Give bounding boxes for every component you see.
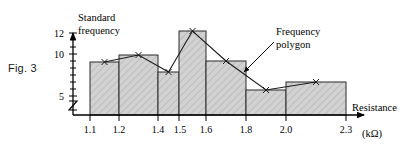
y-tick-label-5: 5 xyxy=(59,91,64,102)
bar-2.0-2.3 xyxy=(286,82,346,115)
annotation-frequency-polygon: Frequency polygon xyxy=(244,26,321,72)
histogram-chart: 12 10 5 Standard frequency 1.1 1.2 1.4 1… xyxy=(0,0,406,149)
y-axis-title-line2: frequency xyxy=(78,25,121,36)
y-axis-title-line1: Standard xyxy=(78,12,116,23)
annotation-leader-line xyxy=(244,42,274,72)
y-tick-label-10: 10 xyxy=(54,49,64,60)
x-tick-label-5: 1.6 xyxy=(200,124,213,135)
x-axis-unit: (kΩ) xyxy=(362,128,383,140)
bar-1.5-1.6 xyxy=(179,31,206,115)
x-tick-label-3: 1.4 xyxy=(152,124,165,135)
x-tick-label-4: 1.5 xyxy=(174,124,187,135)
annotation-text-line1: Frequency xyxy=(276,26,321,37)
x-tick-label-6: 1.8 xyxy=(240,124,253,135)
bar-1.8-2.0 xyxy=(246,90,286,115)
annotation-text-line2: polygon xyxy=(276,39,311,50)
x-tick-label-8: 2.3 xyxy=(340,124,353,135)
x-tick-label-2: 1.2 xyxy=(113,124,126,135)
bar-1.6-1.8 xyxy=(206,61,246,115)
figure-container: Fig. 3 xyxy=(0,0,406,149)
x-tick-label-1: 1.1 xyxy=(84,124,97,135)
x-tick-label-7: 2.0 xyxy=(280,124,293,135)
bar-1.2-1.4 xyxy=(119,55,158,115)
y-tick-label-12: 12 xyxy=(54,28,64,39)
x-axis-title: Resistance xyxy=(352,102,397,113)
bar-1.4-1.5 xyxy=(158,72,179,115)
bar-1.1-1.2 xyxy=(90,62,119,115)
